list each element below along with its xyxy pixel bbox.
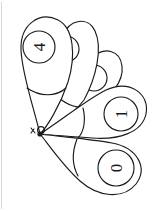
- petal-zero: 0: [40, 134, 141, 195]
- petal-four-digit: 4: [30, 42, 49, 51]
- petal-zero-digit: 0: [107, 164, 126, 173]
- petal-fan-diagram: 4 1 0: [0, 0, 162, 211]
- petal-one-digit: 1: [112, 110, 131, 119]
- petal-zero-outline: [40, 134, 141, 195]
- pivot-dot: [37, 131, 42, 136]
- figure-canvas: 4 1 0: [0, 0, 162, 211]
